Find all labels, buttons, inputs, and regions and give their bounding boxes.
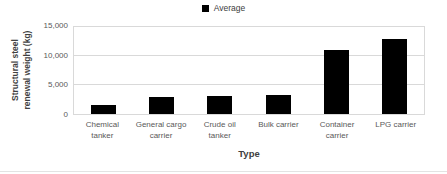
bar-0 — [91, 105, 116, 114]
y-tick-label: 10,000 — [28, 52, 68, 60]
bar-3 — [266, 95, 291, 114]
x-axis-category-labels: Chemical tankerGeneral cargo carrierCrud… — [73, 119, 425, 141]
plot-area — [73, 26, 425, 115]
y-axis-title-line1: Structural steel — [10, 21, 22, 119]
x-category-label: Crude oil tanker — [190, 119, 249, 141]
gridline — [74, 55, 424, 56]
x-category-label: Container carrier — [308, 119, 367, 141]
x-category-label: General cargo carrier — [132, 119, 191, 141]
y-axis-ticks: 05,00010,00015,000 — [28, 26, 68, 115]
y-tick-label: 15,000 — [28, 22, 68, 30]
chart-legend: Average — [0, 3, 447, 13]
y-tick-label: 0 — [28, 111, 68, 119]
x-category-label: Bulk carrier — [249, 119, 308, 141]
x-axis-title: Type — [73, 148, 425, 159]
bar-2 — [207, 96, 232, 114]
bar-5 — [382, 39, 407, 114]
gridline — [74, 84, 424, 85]
y-tick-label: 5,000 — [28, 81, 68, 89]
bar-1 — [149, 97, 174, 114]
bottom-divider — [0, 171, 447, 172]
x-category-label: Chemical tanker — [73, 119, 132, 141]
bar-chart: Average Structural steel renewal weight … — [0, 0, 447, 174]
x-category-label: LPG carrier — [366, 119, 425, 141]
legend-label: Average — [214, 3, 246, 13]
legend-square-icon — [202, 5, 209, 12]
bar-4 — [324, 50, 349, 114]
